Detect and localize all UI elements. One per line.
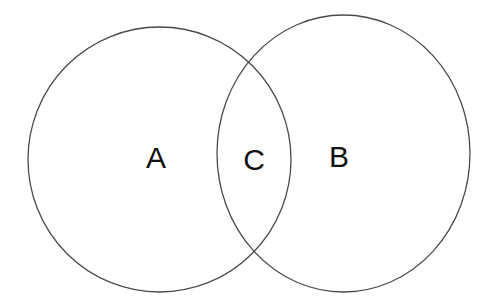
venn-diagram-canvas: A C B bbox=[0, 0, 493, 305]
venn-diagram: A C B bbox=[0, 0, 493, 305]
region-a-label: A bbox=[146, 141, 166, 174]
region-b-label: B bbox=[329, 140, 349, 173]
intersection-c-label: C bbox=[243, 143, 265, 176]
